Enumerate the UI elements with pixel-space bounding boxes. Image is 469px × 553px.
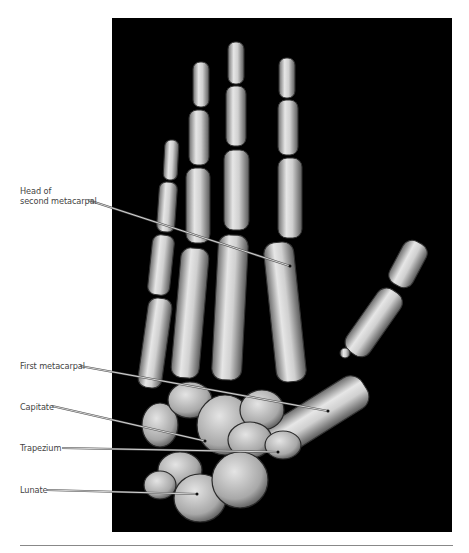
label-text: second metacarpal [20,196,97,206]
label-trapezium: Trapezium [20,443,61,453]
label-text: Head of [20,186,97,196]
bottom-divider [20,545,453,546]
label-text: Lunate [20,485,47,495]
label-text: Trapezium [20,443,61,453]
label-text: Capitate [20,402,54,412]
label-text: First metacarpal [20,361,85,371]
label-capitate: Capitate [20,402,54,412]
label-lunate: Lunate [20,485,47,495]
label-head-second-metacarpal: Head ofsecond metacarpal [20,186,97,206]
ct-hand-image [112,18,452,532]
hand-bones-illustration [112,18,452,532]
label-first-metacarpal: First metacarpal [20,361,85,371]
